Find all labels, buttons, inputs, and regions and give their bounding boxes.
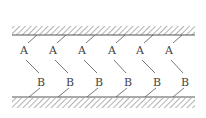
molecule-pair: AB xyxy=(164,35,189,97)
atom-b-label: B xyxy=(37,76,45,89)
molecule-pair: AB xyxy=(107,35,132,97)
bond-wall-to-a xyxy=(28,35,37,43)
atom-b-label: B xyxy=(124,76,132,89)
bond-b-to-wall xyxy=(173,88,184,97)
bond-wall-to-a xyxy=(173,35,182,43)
molecule-pair: AB xyxy=(48,35,74,97)
bond-wall-to-a xyxy=(144,35,153,43)
atom-b-label: B xyxy=(95,76,103,89)
molecule-pair: AB xyxy=(135,35,161,97)
bond-b-to-wall xyxy=(87,88,98,97)
atom-a-label: A xyxy=(48,44,58,57)
atom-b-label: B xyxy=(153,76,161,89)
atom-a-label: A xyxy=(164,44,174,57)
bond-wall-to-a xyxy=(57,35,66,43)
bond-a-to-b xyxy=(26,60,39,73)
bond-b-to-wall xyxy=(116,88,127,97)
bond-a-to-b xyxy=(142,60,155,73)
bond-wall-to-a xyxy=(116,35,125,43)
bottom-wall-hatching xyxy=(12,98,195,108)
bond-a-to-b xyxy=(84,60,97,73)
molecule-pairs: ABABABABABAB xyxy=(19,35,189,97)
bond-a-to-b xyxy=(114,60,126,73)
bond-b-to-wall xyxy=(58,88,69,97)
top-wall-hatching xyxy=(12,26,195,35)
bond-b-to-wall xyxy=(29,88,40,97)
bond-a-to-b xyxy=(171,60,183,73)
atom-a-label: A xyxy=(77,44,87,57)
bond-wall-to-a xyxy=(86,35,95,43)
top-wall xyxy=(12,26,195,35)
atom-a-label: A xyxy=(19,44,29,57)
atom-a-label: A xyxy=(135,44,145,57)
bottom-wall xyxy=(12,97,195,108)
molecule-pair: AB xyxy=(77,35,103,97)
bond-a-to-b xyxy=(55,60,68,73)
atom-a-label: A xyxy=(107,44,117,57)
atom-b-label: B xyxy=(181,76,189,89)
diagram-canvas: ABABABABABAB xyxy=(0,0,206,118)
molecule-pair: AB xyxy=(19,35,45,97)
bond-b-to-wall xyxy=(145,88,156,97)
atom-b-label: B xyxy=(66,76,74,89)
